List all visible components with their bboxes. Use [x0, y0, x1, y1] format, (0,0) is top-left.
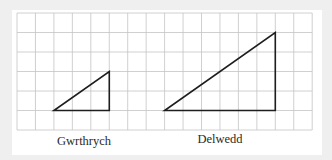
image-label: Delwedd	[197, 132, 242, 147]
grid-diagram	[0, 0, 332, 160]
object-label: Gwrthrych	[57, 134, 111, 149]
grid-lines	[17, 13, 312, 130]
